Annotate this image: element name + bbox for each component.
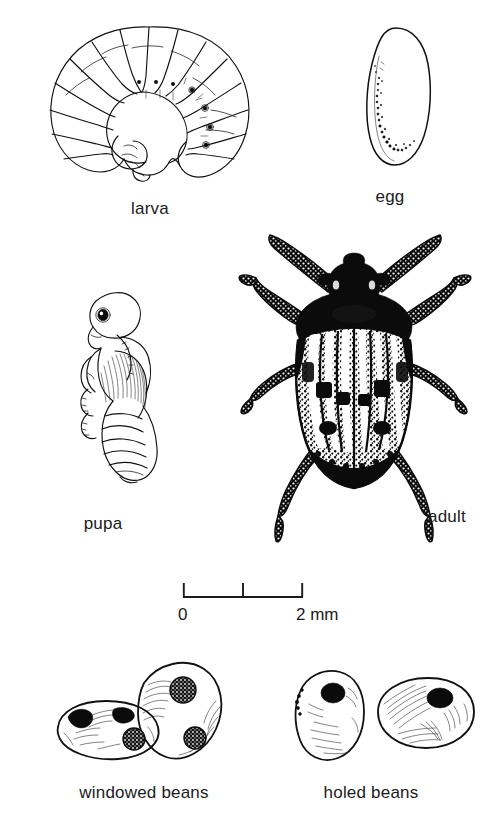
scale-bar-graphic: [183, 583, 303, 597]
windowed-beans-label: windowed beans: [79, 784, 208, 801]
bean-holed-right: [378, 678, 474, 748]
holed-beans-label: holed beans: [324, 784, 419, 801]
windowed-beans-figure: [40, 655, 240, 775]
scale-bar: [175, 578, 315, 604]
elytra: [295, 328, 414, 490]
adult-label: adult: [428, 508, 466, 525]
scale-end-label: 2 mm: [296, 606, 339, 623]
larva-drawing: [50, 27, 249, 181]
adult-beetle-drawing: [239, 235, 471, 542]
pupa-figure: [58, 285, 178, 490]
bean-windowed-upper: [138, 663, 221, 759]
scale-start-label: 0: [178, 606, 187, 623]
adult-figure: [232, 222, 490, 547]
windowed-beans-drawing: [58, 663, 222, 759]
larva-figure: [40, 18, 255, 193]
illustration-plate: larva: [0, 0, 498, 818]
holed-beans-figure: [278, 660, 478, 775]
bean-holed-left: [295, 671, 364, 760]
pupa-label: pupa: [84, 515, 123, 532]
pupa-drawing: [81, 293, 157, 483]
egg-stipple: [375, 66, 415, 152]
egg-figure: [352, 22, 442, 177]
larva-label: larva: [131, 200, 169, 217]
egg-drawing: [367, 28, 431, 165]
bean-windowed-lower: [58, 701, 159, 759]
holed-beans-drawing: [295, 671, 474, 760]
egg-label: egg: [376, 188, 405, 205]
